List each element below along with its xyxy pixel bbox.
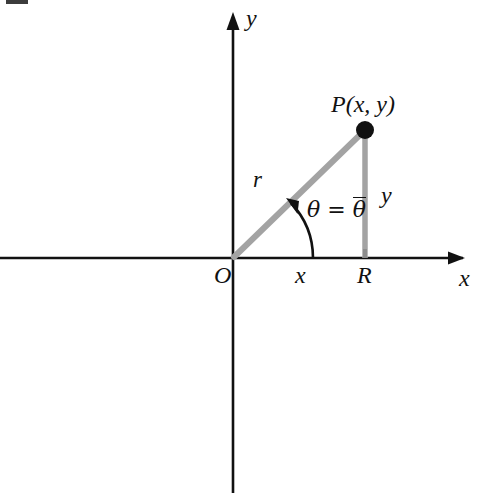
y-axis-arrowhead bbox=[227, 12, 240, 30]
point-p-marker bbox=[356, 121, 374, 139]
figure-canvas: P(x, y) r y θ = θ O x R x y bbox=[0, 0, 483, 498]
horizontal-leg-label: x bbox=[295, 263, 306, 287]
radius-label: r bbox=[253, 168, 262, 191]
y-axis-label: y bbox=[246, 6, 257, 30]
angle-label: θ = θ bbox=[307, 197, 366, 221]
angle-theta-bar-rhs: θ bbox=[353, 197, 366, 221]
x-axis-label: x bbox=[459, 266, 470, 290]
radius-segment bbox=[234, 131, 364, 257]
foot-point-label: R bbox=[357, 263, 372, 287]
x-axis-arrowhead bbox=[448, 252, 465, 265]
angle-theta-lhs: θ bbox=[307, 197, 320, 222]
vertical-leg-label: y bbox=[381, 183, 392, 207]
point-p-label: P(x, y) bbox=[331, 92, 395, 116]
angle-equals-sign: = bbox=[320, 197, 352, 222]
origin-label: O bbox=[214, 263, 231, 287]
coordinate-diagram bbox=[0, 0, 483, 498]
